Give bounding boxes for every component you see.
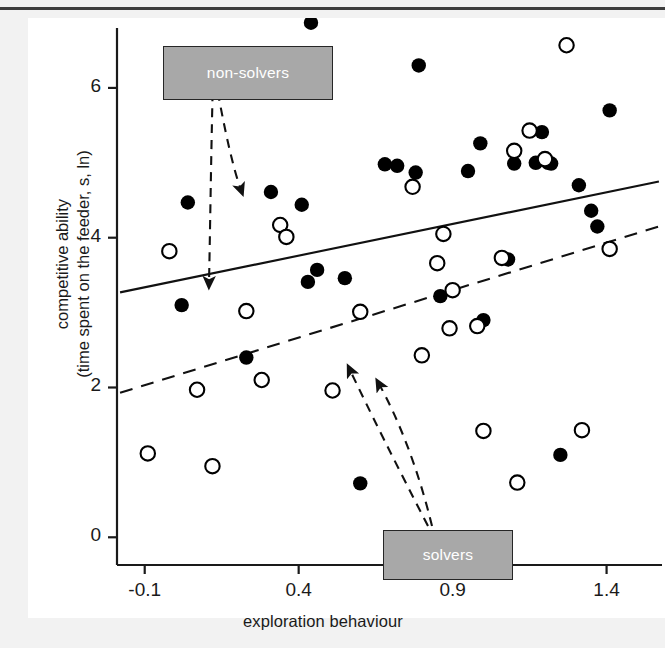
data-point-solvers — [430, 256, 444, 270]
data-point-non-solvers — [338, 271, 352, 285]
data-point-solvers — [510, 475, 524, 489]
annotation-arrows — [209, 76, 432, 526]
arrow-solvers-b — [379, 384, 432, 526]
x-tick-label: 0.4 — [277, 579, 321, 601]
annotation-box-solvers-label: solvers — [423, 546, 474, 564]
data-point-solvers — [476, 424, 490, 438]
data-point-solvers — [602, 242, 616, 256]
data-point-solvers — [279, 230, 293, 244]
data-point-solvers — [190, 383, 204, 397]
y-tick-label: 0 — [71, 524, 101, 546]
data-point-solvers — [255, 373, 269, 387]
data-point-non-solvers — [304, 18, 318, 30]
x-tick-label: 1.4 — [585, 579, 629, 601]
data-point-non-solvers — [461, 164, 475, 178]
data-point-solvers — [575, 423, 589, 437]
y-tick-label: 2 — [71, 374, 101, 396]
fit-line-solvers-fit — [120, 226, 659, 392]
figure-canvas: competitive ability (time spent on the f… — [28, 18, 665, 618]
scatter-plot — [28, 18, 665, 618]
y-tick-label: 4 — [71, 225, 101, 247]
data-point-solvers — [507, 144, 521, 158]
arrow-solvers-a — [350, 370, 428, 526]
data-point-non-solvers — [353, 476, 367, 490]
x-tick-label: 0.9 — [431, 579, 475, 601]
x-tick-label: -0.1 — [123, 579, 167, 601]
fit-line-non-solvers-fit — [120, 182, 659, 293]
data-point-solvers — [522, 123, 536, 137]
data-point-non-solvers — [264, 185, 278, 199]
data-point-non-solvers — [378, 157, 392, 171]
data-point-solvers — [162, 244, 176, 258]
data-point-solvers — [495, 251, 509, 265]
figure-page: competitive ability (time spent on the f… — [0, 0, 665, 648]
y-tick-label: 6 — [71, 75, 101, 97]
annotation-box-non-solvers-label: non-solvers — [207, 64, 289, 82]
annotation-box-solvers: solvers — [383, 530, 513, 580]
data-point-solvers — [445, 283, 459, 297]
data-point-non-solvers — [408, 165, 422, 179]
data-point-solvers — [205, 459, 219, 473]
arrow-nonsolvers-a — [209, 76, 213, 283]
data-point-non-solvers — [174, 298, 188, 312]
data-point-non-solvers — [572, 178, 586, 192]
data-point-non-solvers — [584, 204, 598, 218]
data-point-solvers — [436, 227, 450, 241]
data-point-non-solvers — [181, 195, 195, 209]
data-point-non-solvers — [239, 350, 253, 364]
data-point-solvers — [353, 305, 367, 319]
data-point-non-solvers — [553, 448, 567, 462]
annotation-box-non-solvers: non-solvers — [163, 46, 333, 100]
data-point-solvers — [405, 180, 419, 194]
data-point-non-solvers — [412, 58, 426, 72]
data-point-solvers — [141, 446, 155, 460]
axes — [117, 28, 662, 565]
data-point-non-solvers — [602, 103, 616, 117]
data-point-non-solvers — [590, 219, 604, 233]
data-point-solvers — [470, 319, 484, 333]
data-point-non-solvers — [473, 136, 487, 150]
data-point-solvers — [415, 348, 429, 362]
data-point-solvers — [325, 383, 339, 397]
data-point-solvers — [538, 152, 552, 166]
data-point-solvers — [239, 304, 253, 318]
data-point-solvers — [442, 321, 456, 335]
y-axis-title-line1: competitive ability — [52, 99, 73, 429]
top-divider-rule — [0, 7, 665, 10]
data-point-solvers — [559, 38, 573, 52]
data-point-non-solvers — [390, 159, 404, 173]
x-axis-title: exploration behaviour — [243, 612, 403, 631]
data-point-non-solvers — [301, 275, 315, 289]
fit-lines — [120, 182, 659, 393]
data-point-non-solvers — [295, 198, 309, 212]
data-point-non-solvers — [310, 263, 324, 277]
